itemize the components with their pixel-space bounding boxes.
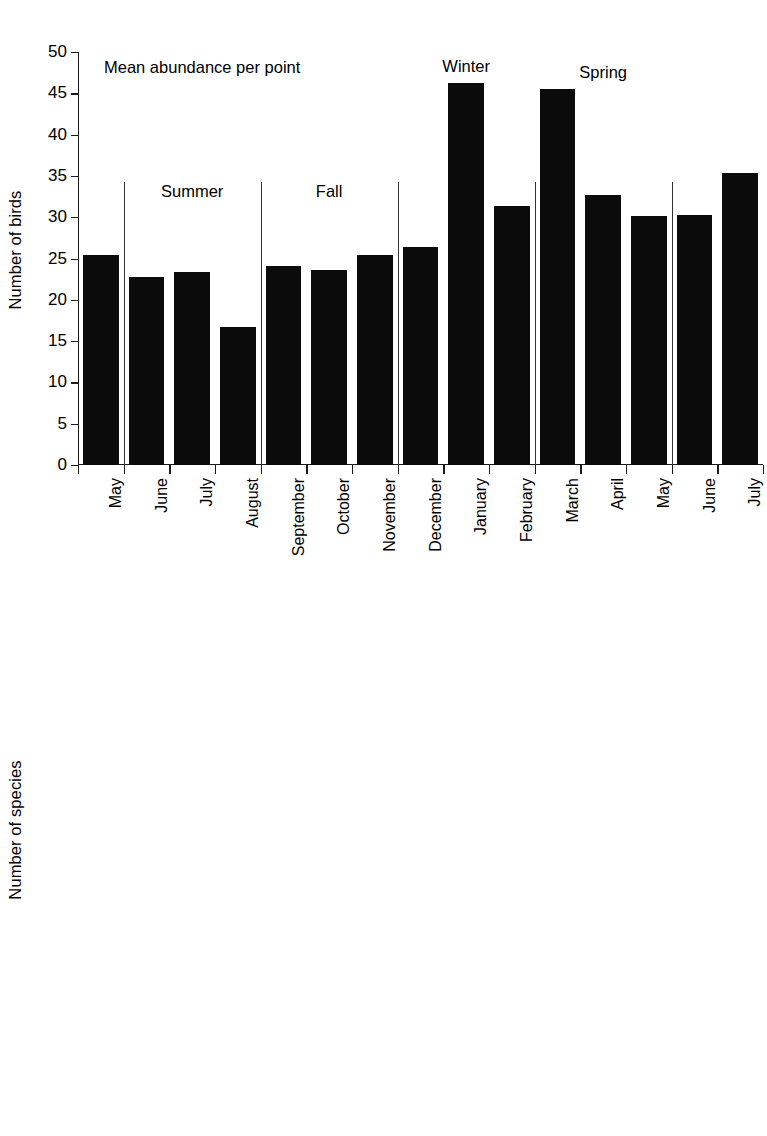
abundance-bar-group — [78, 52, 763, 465]
season-divider-line — [398, 182, 399, 465]
abundance-plot-area: Mean abundance per point 051015202530354… — [78, 52, 763, 465]
y-axis-tick — [71, 217, 78, 218]
y-axis-tick-label: 40 — [48, 125, 67, 145]
bar — [631, 216, 667, 465]
x-axis-tick — [717, 465, 718, 474]
bar — [448, 83, 484, 465]
x-axis-tick — [78, 465, 79, 474]
season-label: Winter — [442, 57, 490, 76]
richness-y-axis-title: Number of species — [6, 680, 25, 980]
season-divider-line — [535, 182, 536, 465]
y-axis-tick — [71, 300, 78, 301]
y-axis-tick-label: 35 — [48, 166, 67, 186]
y-axis-tick — [71, 259, 78, 260]
y-axis-tick-label: 5 — [58, 414, 67, 434]
y-axis-tick — [71, 465, 78, 466]
bar — [494, 206, 530, 465]
bar — [174, 272, 210, 465]
x-axis-tick — [626, 465, 627, 474]
y-axis-tick-label: 10 — [48, 372, 67, 392]
season-label: Summer — [161, 182, 223, 201]
y-axis-tick — [71, 52, 78, 53]
y-axis-tick — [71, 382, 78, 383]
x-axis-tick — [580, 465, 581, 474]
y-axis-tick — [71, 341, 78, 342]
season-divider-line — [261, 182, 262, 465]
y-axis-tick-label: 25 — [48, 249, 67, 269]
y-axis-tick — [71, 176, 78, 177]
x-axis-tick — [763, 465, 764, 474]
y-axis-tick — [71, 135, 78, 136]
bar — [266, 266, 302, 465]
x-axis-tick — [398, 465, 399, 474]
bar — [677, 215, 713, 465]
y-axis-tick-label: 45 — [48, 83, 67, 103]
bar — [403, 247, 439, 465]
y-axis-tick-label: 0 — [58, 455, 67, 475]
season-divider-line — [124, 182, 125, 465]
bar — [220, 327, 256, 465]
bar — [311, 270, 347, 465]
y-axis-tick — [71, 93, 78, 94]
bar — [722, 173, 758, 465]
bar — [585, 195, 621, 465]
bar — [357, 255, 393, 465]
bar — [83, 255, 119, 465]
y-axis-tick-label: 15 — [48, 331, 67, 351]
richness-chart-panel: Number of species Mean richness per poin… — [0, 560, 767, 1136]
abundance-y-axis-title: Number of birds — [6, 100, 25, 400]
y-axis-tick-label: 20 — [48, 290, 67, 310]
x-axis-tick — [215, 465, 216, 474]
season-label: Spring — [579, 63, 627, 82]
x-axis-tick — [352, 465, 353, 474]
x-axis-tick — [306, 465, 307, 474]
x-axis-tick — [672, 465, 673, 474]
season-label: Fall — [316, 182, 343, 201]
x-axis-tick — [489, 465, 490, 474]
x-axis-tick — [169, 465, 170, 474]
y-axis-tick-label: 30 — [48, 207, 67, 227]
x-axis-tick — [124, 465, 125, 474]
abundance-chart-panel: Number of birds Mean abundance per point… — [0, 0, 767, 590]
bar — [129, 277, 165, 465]
x-axis-tick — [443, 465, 444, 474]
x-axis-tick — [261, 465, 262, 474]
season-divider-line — [672, 182, 673, 465]
y-axis-tick-label: 50 — [48, 42, 67, 62]
x-axis-tick — [535, 465, 536, 474]
bar — [540, 89, 576, 465]
y-axis-tick — [71, 424, 78, 425]
